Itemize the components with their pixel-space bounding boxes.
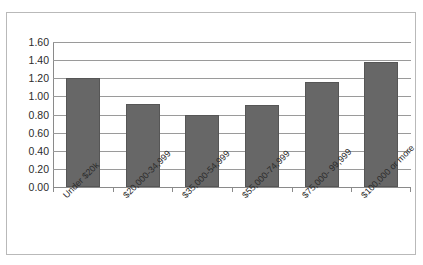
y-axis-tick-label: 1.00	[13, 91, 49, 101]
x-axis-tick	[113, 188, 114, 192]
y-axis-tick-label: 0.00	[13, 182, 49, 192]
bar-series	[53, 42, 411, 187]
x-axis-tick	[351, 188, 352, 192]
x-axis-tick	[53, 188, 54, 192]
x-axis-tick	[172, 188, 173, 192]
chart-container: 0.000.200.400.600.801.001.201.401.60 Und…	[6, 12, 416, 255]
x-axis-tick	[292, 188, 293, 192]
y-axis-tick-label: 1.40	[13, 55, 49, 65]
y-axis-tick-label: 0.20	[13, 164, 49, 174]
plot-area	[53, 42, 411, 187]
y-axis-tick-label: 0.40	[13, 146, 49, 156]
x-axis-tick-labels: Under $20k$20,000-34,999$35,000-54,999$5…	[53, 193, 411, 255]
y-axis-tick-label: 1.20	[13, 73, 49, 83]
x-axis-tick	[410, 188, 411, 192]
y-axis-tick-label: 1.60	[13, 37, 49, 47]
y-axis-tick-labels: 0.000.200.400.600.801.001.201.401.60	[7, 42, 49, 187]
y-axis-tick-label: 0.60	[13, 128, 49, 138]
x-axis-tick	[232, 188, 233, 192]
y-axis-tick-label: 0.80	[13, 110, 49, 120]
